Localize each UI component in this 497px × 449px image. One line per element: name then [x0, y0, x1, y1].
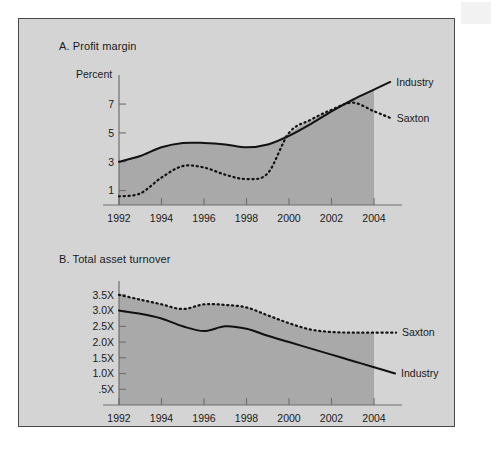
series-label-industry: Industry	[401, 367, 439, 379]
x-tick-label: 2004	[362, 412, 386, 424]
series-label-saxton: Saxton	[402, 326, 435, 338]
x-tick-label: 1992	[107, 412, 131, 424]
y-tick-label: 3.0X	[92, 304, 114, 316]
x-tick-label: 2000	[277, 412, 301, 424]
figure-panel: A. Profit margin Percent 135719921994199…	[18, 18, 455, 427]
x-tick-label: 1996	[192, 412, 216, 424]
y-tick-label: 2.5X	[92, 320, 114, 332]
x-tick-label: 1998	[235, 412, 259, 424]
chart-panel-b: B. Total asset turnover .5X1.0X1.5X2.0X2…	[19, 19, 454, 426]
y-tick-label: 1.0X	[92, 367, 114, 379]
y-tick-label: 2.0X	[92, 336, 114, 348]
y-tick-label: .5X	[98, 383, 114, 395]
y-tick-label: 1.5X	[92, 352, 114, 364]
x-tick-label: 1994	[150, 412, 174, 424]
y-tick-label: 3.5X	[92, 289, 114, 301]
x-tick-label: 2002	[320, 412, 344, 424]
chart-b-plot: .5X1.0X1.5X2.0X2.5X3.0X3.5X1992199419961…	[19, 239, 456, 429]
corner-artifact	[461, 2, 491, 24]
